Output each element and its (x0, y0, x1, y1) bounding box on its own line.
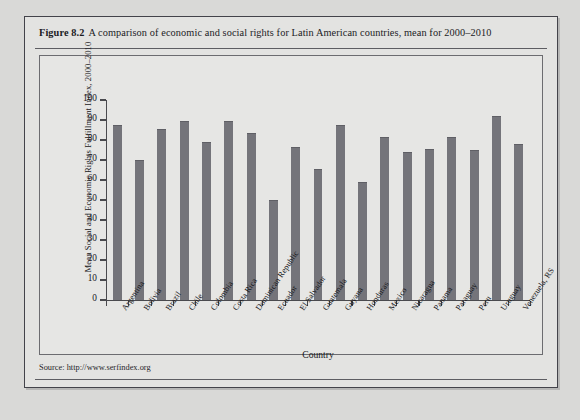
bar (202, 142, 211, 300)
y-tick-label: 30 (88, 233, 97, 243)
bar (380, 137, 389, 300)
bar (447, 137, 456, 300)
x-tick (106, 301, 107, 306)
bar-series (106, 100, 530, 300)
plot-frame: Mean Social and Economic Rights Fulfillm… (39, 55, 543, 355)
bar (470, 150, 479, 300)
y-tick-label: 70 (88, 153, 97, 163)
bar (113, 125, 122, 300)
y-tick-label: 50 (88, 193, 97, 203)
source-note: Source: http://www.serfindex.org (39, 363, 151, 372)
caption-divider (35, 48, 547, 49)
figure-number: Figure 8.2 (39, 27, 84, 38)
bar (291, 147, 300, 300)
bar (336, 125, 345, 300)
y-tick-label: 80 (88, 133, 97, 143)
bar (358, 182, 367, 300)
bar (224, 121, 233, 300)
bar (157, 129, 166, 300)
figure-caption-text: A comparison of economic and social righ… (88, 27, 491, 38)
bar (180, 121, 189, 300)
y-tick-label: 0 (92, 293, 97, 303)
figure-caption: Figure 8.2A comparison of economic and s… (39, 27, 547, 38)
y-tick-label: 20 (88, 253, 97, 263)
y-tick-label: 90 (88, 113, 97, 123)
y-tick-label: 10 (88, 273, 97, 283)
bar (403, 152, 412, 300)
y-tick-label: 100 (83, 93, 97, 103)
y-tick-label: 40 (88, 213, 97, 223)
figure-panel: Figure 8.2A comparison of economic and s… (24, 16, 558, 388)
bar (492, 116, 501, 300)
bar (514, 144, 523, 300)
figure-page: Figure 8.2A comparison of economic and s… (0, 0, 580, 420)
x-axis-title: Country (106, 349, 530, 360)
y-tick-label: 60 (88, 173, 97, 183)
source-divider (35, 379, 547, 380)
